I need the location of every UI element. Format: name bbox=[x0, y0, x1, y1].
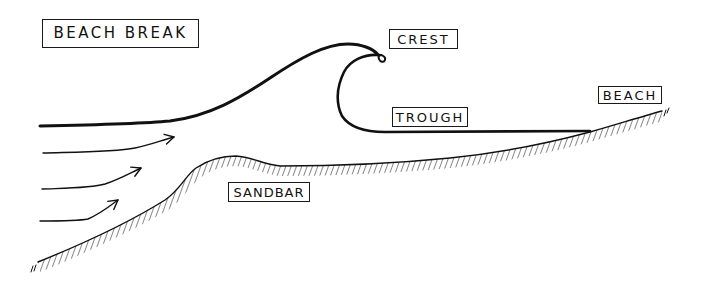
swell-arrow-3 bbox=[40, 200, 118, 221]
seabed-end-ticks bbox=[31, 108, 669, 272]
wave-surface-line bbox=[40, 44, 378, 126]
swell-arrow-1 bbox=[43, 137, 174, 153]
label-crest: CREST bbox=[389, 29, 458, 49]
seabed-hatching bbox=[38, 111, 664, 272]
label-sandbar: SANDBAR bbox=[228, 182, 310, 202]
label-beach: BEACH bbox=[598, 86, 662, 104]
label-trough: TROUGH bbox=[392, 107, 468, 127]
seabed-line bbox=[38, 111, 662, 262]
diagram-title: BEACH BREAK bbox=[42, 19, 199, 48]
swell-arrow-2 bbox=[42, 168, 141, 189]
